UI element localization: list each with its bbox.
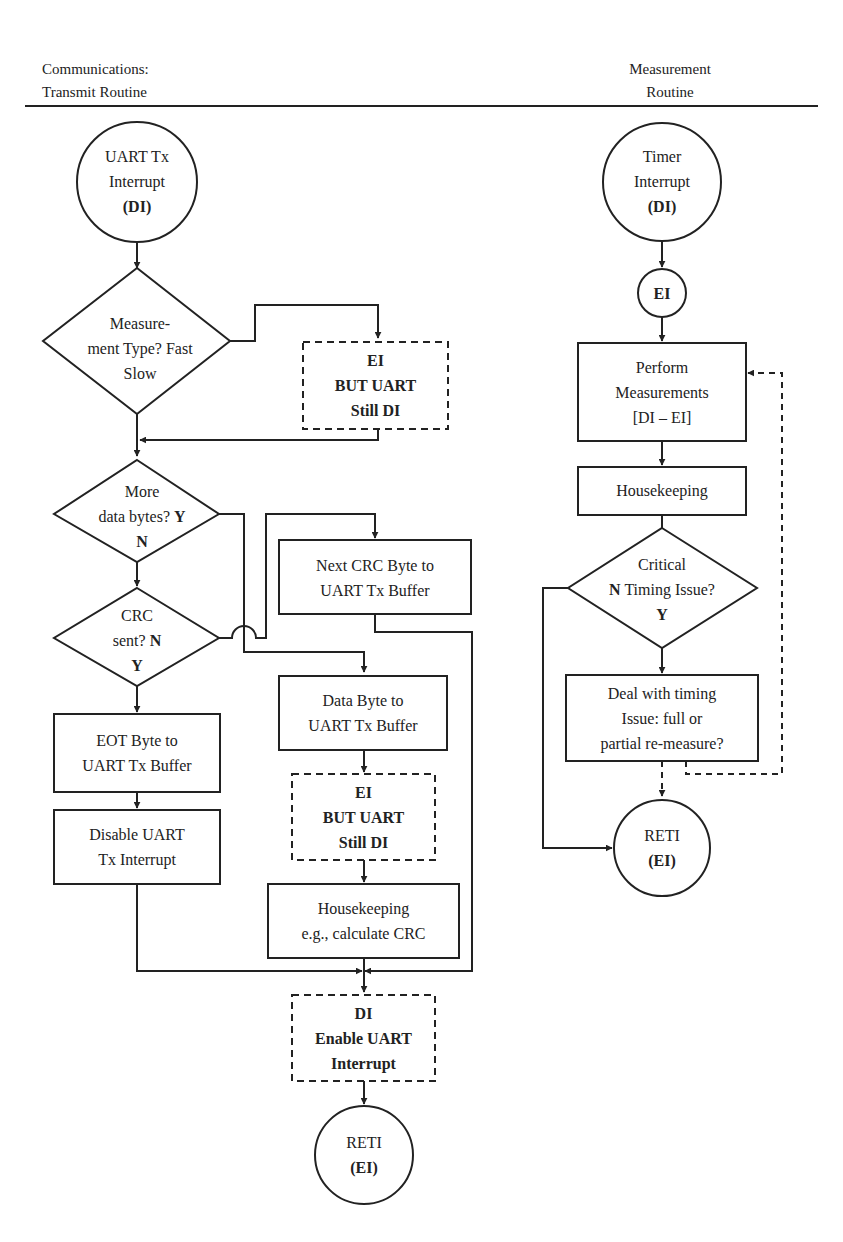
- ei-box-2-label: EI BUT UART Still DI: [292, 780, 435, 855]
- label-line: Enable UART: [292, 1026, 435, 1051]
- crc-sent-label: CRC sent? N Y: [77, 603, 197, 678]
- next-crc-byte-label: Next CRC Byte to UART Tx Buffer: [279, 553, 471, 603]
- label-line: (EI): [314, 1155, 414, 1180]
- label-line: Perform: [578, 355, 746, 380]
- more-data-bytes-label: More data bytes? Y N: [67, 479, 217, 554]
- label-line: Data Byte to: [279, 688, 447, 713]
- label-line: Next CRC Byte to: [279, 553, 471, 578]
- uart-tx-interrupt-label: UART Tx Interrupt (DI): [77, 144, 197, 219]
- yes-branch-label: Y: [174, 508, 186, 525]
- measurement-type-label: Measure- ment Type? Fast Slow: [60, 311, 220, 386]
- timer-interrupt-label: Timer Interrupt (DI): [602, 144, 722, 219]
- label-line: Critical: [582, 552, 742, 577]
- label-line: Interrupt: [602, 169, 722, 194]
- label-line: EOT Byte to: [54, 728, 220, 753]
- label-line: Still DI: [292, 830, 435, 855]
- label-line: partial re-measure?: [566, 731, 758, 756]
- label-line: Deal with timing: [566, 681, 758, 706]
- label-line: Timer: [602, 144, 722, 169]
- yes-branch-label: Y: [582, 602, 742, 627]
- label-line: DI: [292, 1001, 435, 1026]
- no-branch-label: N: [67, 529, 217, 554]
- label-line: More: [67, 479, 217, 504]
- ei-box-1-label: EI BUT UART Still DI: [303, 348, 448, 423]
- label-line: BUT UART: [292, 805, 435, 830]
- label-line: [DI – EI]: [578, 405, 746, 430]
- label-line: Timing Issue?: [624, 581, 715, 598]
- housekeeping-label: Housekeeping: [578, 478, 746, 503]
- eot-byte-label: EOT Byte to UART Tx Buffer: [54, 728, 220, 778]
- transmit-routine-title: Communications: Transmit Routine: [42, 58, 149, 104]
- label-line: ment Type?: [87, 340, 162, 357]
- label-line: CRC: [77, 603, 197, 628]
- label-line: EI: [303, 348, 448, 373]
- label-line: Still DI: [303, 398, 448, 423]
- label-line: Disable UART: [54, 822, 220, 847]
- label-line: Measurements: [578, 380, 746, 405]
- housekeeping-calc-crc-label: Housekeeping e.g., calculate CRC: [268, 896, 459, 946]
- label-line: Measure-: [60, 311, 220, 336]
- label-line: (EI): [612, 848, 712, 873]
- ei-node-label: EI: [637, 281, 687, 306]
- perform-measurements-label: Perform Measurements [DI – EI]: [578, 355, 746, 430]
- transmit-title-line2: Transmit Routine: [42, 81, 149, 104]
- label-line: Issue: full or: [566, 706, 758, 731]
- data-byte-label: Data Byte to UART Tx Buffer: [279, 688, 447, 738]
- reti-measurement-label: RETI (EI): [612, 823, 712, 873]
- label-line: RETI: [314, 1130, 414, 1155]
- no-branch-label: N: [150, 632, 162, 649]
- label-line: UART Tx Buffer: [279, 578, 471, 603]
- label-line: data bytes?: [98, 508, 170, 525]
- label-line: RETI: [612, 823, 712, 848]
- transmit-title-line1: Communications:: [42, 58, 149, 81]
- reti-transmit-label: RETI (EI): [314, 1130, 414, 1180]
- label-line: UART Tx Buffer: [279, 713, 447, 738]
- label-line: UART Tx: [77, 144, 197, 169]
- label-line: Interrupt: [77, 169, 197, 194]
- slow-branch-label: Slow: [60, 361, 220, 386]
- disable-uart-label: Disable UART Tx Interrupt: [54, 822, 220, 872]
- label-line: sent?: [113, 632, 146, 649]
- measurement-title-line1: Measurement: [600, 58, 740, 81]
- no-branch-label: N: [609, 581, 621, 598]
- label-line: Tx Interrupt: [54, 847, 220, 872]
- label-line: Interrupt: [292, 1051, 435, 1076]
- label-line: UART Tx Buffer: [54, 753, 220, 778]
- measurement-title-line2: Routine: [600, 81, 740, 104]
- yes-branch-label: Y: [77, 653, 197, 678]
- label-line: e.g., calculate CRC: [268, 921, 459, 946]
- label-line: EI: [292, 780, 435, 805]
- critical-timing-label: Critical N Timing Issue? Y: [582, 552, 742, 627]
- label-line: BUT UART: [303, 373, 448, 398]
- deal-with-timing-label: Deal with timing Issue: full or partial …: [566, 681, 758, 756]
- label-line: Housekeeping: [268, 896, 459, 921]
- measurement-routine-title: Measurement Routine: [600, 58, 740, 104]
- fast-branch-label: Fast: [166, 340, 193, 357]
- label-line: (DI): [77, 194, 197, 219]
- label-line: (DI): [602, 194, 722, 219]
- di-enable-uart-label: DI Enable UART Interrupt: [292, 1001, 435, 1076]
